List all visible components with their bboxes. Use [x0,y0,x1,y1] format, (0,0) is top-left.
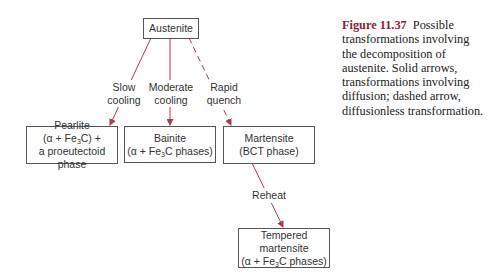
edge-label-slow-cooling: Slow cooling [104,80,144,107]
caption-text: Possible transformations involving the d… [342,18,483,118]
edge-label-rapid-quench: Rapid quench [206,80,242,107]
figure-caption: Figure 11.37 Possible transformations in… [342,18,487,118]
figure-label: Figure 11.37 [342,18,407,32]
node-austenite: Austenite [143,18,199,39]
edge-label-moderate-cooling: Moderate cooling [148,80,194,107]
edge-label-reheat: Reheat [249,188,289,203]
node-martensite: Martensite (BCT phase) [223,126,315,164]
node-bainite: Bainite (α + Fe3C phases) [124,126,216,163]
node-pearlite: Pearlite (α + Fe3C) + a proeutectoid pha… [26,126,118,164]
node-austenite-label: Austenite [149,22,193,35]
node-tempered-martensite: Tempered martensite (α + Fe3C phases) [238,228,330,268]
